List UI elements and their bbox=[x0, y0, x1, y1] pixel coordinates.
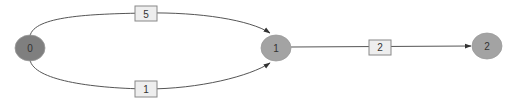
node-label: 2 bbox=[484, 41, 490, 52]
edge-weight-label: 5 bbox=[135, 6, 157, 21]
edge-weight-text: 1 bbox=[143, 84, 149, 95]
graph-diagram: 5 1 2 0 1 2 bbox=[0, 0, 521, 102]
edge-1-to-2: 2 bbox=[291, 40, 471, 55]
graph-node-2[interactable]: 2 bbox=[472, 33, 502, 59]
edge-weight-text: 2 bbox=[377, 42, 383, 53]
edge-weight-text: 5 bbox=[143, 9, 149, 20]
node-label: 0 bbox=[27, 43, 33, 54]
graph-node-0[interactable]: 0 bbox=[15, 35, 45, 61]
edge-0-to-1-top: 5 bbox=[30, 6, 270, 36]
edge-0-to-1-bottom: 1 bbox=[30, 60, 270, 97]
edge-weight-label: 1 bbox=[135, 81, 157, 97]
edge-weight-label: 2 bbox=[369, 40, 391, 55]
node-label: 1 bbox=[273, 43, 279, 54]
graph-node-1[interactable]: 1 bbox=[261, 35, 291, 61]
